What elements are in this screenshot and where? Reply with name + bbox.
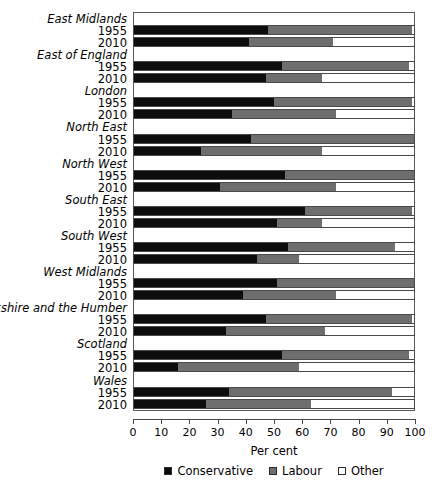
x-axis-tick xyxy=(330,419,331,424)
legend-swatch-other xyxy=(338,467,346,475)
bar-segment-labour xyxy=(277,278,415,288)
bar-segment-conservative xyxy=(133,387,229,397)
bar-segment-labour xyxy=(243,290,336,300)
bar-segment-conservative xyxy=(133,278,277,288)
region-label: Wales xyxy=(93,375,127,387)
stacked-bar xyxy=(133,206,415,216)
legend-label-other: Other xyxy=(351,464,384,478)
stacked-bar xyxy=(133,350,415,360)
bars-layer xyxy=(133,12,415,411)
x-axis-tick-label: 30 xyxy=(211,426,225,439)
stacked-bar xyxy=(133,109,415,119)
region-label: North East xyxy=(66,121,127,133)
bar-segment-conservative xyxy=(133,399,206,409)
bar-segment-other xyxy=(409,61,415,71)
bar-segment-other xyxy=(336,182,415,192)
stacked-bar xyxy=(133,97,415,107)
bar-segment-conservative xyxy=(133,218,277,228)
bar-segment-labour xyxy=(282,350,409,360)
year-label: 1955 xyxy=(98,206,127,218)
bar-segment-conservative xyxy=(133,182,220,192)
bar-segment-conservative xyxy=(133,326,226,336)
bar-segment-labour xyxy=(288,242,395,252)
bar-segment-conservative xyxy=(133,362,178,372)
bar-segment-conservative xyxy=(133,109,232,119)
bar-segment-labour xyxy=(229,387,393,397)
stacked-bar xyxy=(133,25,415,35)
bar-segment-other xyxy=(409,350,415,360)
x-axis-title: Per cent xyxy=(133,444,415,458)
legend-label-conservative: Conservative xyxy=(177,464,253,478)
bar-segment-other xyxy=(412,314,415,324)
legend-label-labour: Labour xyxy=(282,464,322,478)
bar-segment-labour xyxy=(266,314,413,324)
year-label: 2010 xyxy=(98,399,127,411)
stacked-bar xyxy=(133,326,415,336)
stacked-bar xyxy=(133,37,415,47)
bar-segment-conservative xyxy=(133,350,282,360)
bar-segment-conservative xyxy=(133,61,282,71)
region-label: South East xyxy=(65,194,127,206)
x-axis-tick xyxy=(189,419,190,424)
stacked-bar xyxy=(133,254,415,264)
bar-segment-conservative xyxy=(133,73,266,83)
bar-segment-other xyxy=(336,109,415,119)
x-axis-tick xyxy=(161,419,162,424)
region-label: North West xyxy=(62,158,127,170)
x-axis-tick xyxy=(246,419,247,424)
bar-segment-labour xyxy=(226,326,325,336)
x-axis-tick-label: 40 xyxy=(239,426,253,439)
legend-item-conservative: Conservative xyxy=(164,464,253,478)
bar-segment-labour xyxy=(305,206,412,216)
x-axis-tick xyxy=(387,419,388,424)
x-axis-tick-label: 80 xyxy=(352,426,366,439)
bar-segment-other xyxy=(322,146,415,156)
x-axis-tick-label: 70 xyxy=(323,426,337,439)
x-axis-tick-label: 50 xyxy=(267,426,281,439)
stacked-bar xyxy=(133,170,415,180)
bar-segment-other xyxy=(299,254,415,264)
stacked-bar xyxy=(133,182,415,192)
year-label: 2010 xyxy=(98,362,127,374)
bar-segment-labour xyxy=(178,362,299,372)
bar-segment-other xyxy=(395,242,415,252)
bar-segment-labour xyxy=(206,399,310,409)
stacked-bar xyxy=(133,387,415,397)
bar-segment-labour xyxy=(249,37,334,47)
bar-segment-labour xyxy=(220,182,336,192)
bar-segment-conservative xyxy=(133,25,268,35)
x-axis-tick xyxy=(274,419,275,424)
x-axis-tick xyxy=(302,419,303,424)
x-axis-tick-label: 60 xyxy=(295,426,309,439)
bar-segment-conservative xyxy=(133,314,266,324)
stacked-bar xyxy=(133,146,415,156)
x-axis-tick-label: 90 xyxy=(380,426,394,439)
stacked-bar xyxy=(133,399,415,409)
bar-segment-conservative xyxy=(133,37,249,47)
bar-segment-conservative xyxy=(133,97,274,107)
stacked-bar xyxy=(133,218,415,228)
bar-segment-other xyxy=(322,73,415,83)
bar-segment-labour xyxy=(277,218,322,228)
bar-segment-other xyxy=(392,387,415,397)
stacked-bar xyxy=(133,61,415,71)
bar-segment-conservative xyxy=(133,206,305,216)
y-axis-labels: East Midlands19552010East of England1955… xyxy=(0,12,131,411)
bar-segment-conservative xyxy=(133,170,285,180)
bar-segment-other xyxy=(412,97,415,107)
year-label: 1955 xyxy=(98,387,127,399)
stacked-bar-chart: East Midlands19552010East of England1955… xyxy=(0,0,442,492)
bar-segment-labour xyxy=(285,170,415,180)
x-axis-tick xyxy=(359,419,360,424)
bar-segment-conservative xyxy=(133,134,251,144)
stacked-bar xyxy=(133,362,415,372)
bar-segment-conservative xyxy=(133,290,243,300)
stacked-bar xyxy=(133,290,415,300)
bar-segment-other xyxy=(311,399,415,409)
stacked-bar xyxy=(133,73,415,83)
x-axis-tick xyxy=(133,419,134,424)
x-axis-tick-label: 0 xyxy=(130,426,137,439)
x-axis-tick-label: 10 xyxy=(154,426,168,439)
chart-legend: Conservative Labour Other xyxy=(133,464,415,478)
bar-segment-conservative xyxy=(133,242,288,252)
